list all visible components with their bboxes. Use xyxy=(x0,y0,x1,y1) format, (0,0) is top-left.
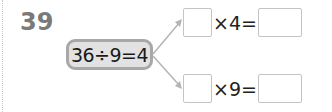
answer-blank-2a[interactable] xyxy=(183,74,212,103)
branch-row-2: ×9= xyxy=(183,74,302,103)
operator-text-2: ×9= xyxy=(213,78,257,100)
operator-text-1: ×4= xyxy=(213,12,257,34)
answer-blank-2b[interactable] xyxy=(258,74,302,103)
arrow-up-icon xyxy=(153,22,180,54)
arrow-down-icon xyxy=(153,56,180,86)
answer-blank-1b[interactable] xyxy=(258,8,302,37)
answer-blank-1a[interactable] xyxy=(183,8,212,37)
branch-row-1: ×4= xyxy=(183,8,302,37)
